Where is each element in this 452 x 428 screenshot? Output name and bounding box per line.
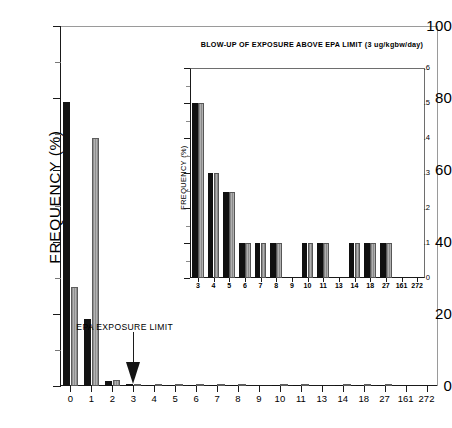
main-y-tick-label: 20 <box>406 306 452 321</box>
main-bar <box>105 381 113 386</box>
inset-y-tick <box>184 138 190 139</box>
inset-bar <box>208 173 214 278</box>
main-bar <box>301 384 309 386</box>
main-bar <box>167 385 175 386</box>
epa-limit-arrow-shaft <box>133 332 134 366</box>
main-x-tick <box>112 386 113 392</box>
main-x-tick-label: 272 <box>412 394 442 404</box>
main-bar <box>188 385 196 386</box>
inset-y-minor-tick <box>186 261 190 262</box>
main-bar <box>343 384 351 386</box>
inset-bar <box>223 192 229 278</box>
main-bar <box>196 384 204 386</box>
main-bar <box>217 384 225 386</box>
inset-bar <box>302 243 308 278</box>
main-bar <box>113 380 121 386</box>
main-bar <box>293 385 301 386</box>
main-bar <box>272 385 280 386</box>
main-bar <box>126 384 134 386</box>
main-bar <box>63 102 71 386</box>
main-y-tick <box>53 26 61 27</box>
main-bar <box>238 384 246 386</box>
inset-bar <box>349 243 355 278</box>
inset-y-tick-label: .6 <box>402 64 430 72</box>
main-y-axis-title: FREQUENCY (%) <box>46 130 64 263</box>
main-x-tick <box>322 386 323 392</box>
inset-chart-blowup: BLOW-UP OF EXPOSURE ABOVE EPA LIMIT (3 u… <box>150 30 430 292</box>
main-y-minor-tick <box>55 134 61 135</box>
inset-y-minor-tick <box>186 121 190 122</box>
inset-y-minor-tick <box>186 86 190 87</box>
inset-bar <box>192 103 198 278</box>
main-x-tick <box>427 386 428 392</box>
main-bar <box>377 385 385 386</box>
main-y-tick-label: 0 <box>406 378 452 393</box>
main-x-tick <box>91 386 92 392</box>
main-y-minor-tick <box>55 206 61 207</box>
inset-y-tick-label: 0 <box>402 274 430 282</box>
main-y-tick <box>53 386 61 387</box>
inset-bar <box>261 243 267 278</box>
main-x-tick <box>70 386 71 392</box>
inset-bar <box>317 243 323 278</box>
inset-bar <box>364 243 370 278</box>
figure-histogram-exposure: FREQUENCY (%) 020406080100 0123456789101… <box>0 0 452 428</box>
epa-limit-arrow-head-icon <box>126 362 140 384</box>
inset-y-tick-label: .1 <box>402 239 430 247</box>
inset-bar <box>386 243 392 278</box>
main-x-tick <box>364 386 365 392</box>
main-y-minor-tick <box>55 278 61 279</box>
main-bar <box>92 138 100 386</box>
main-y-tick <box>53 242 61 243</box>
inset-bar <box>245 243 251 278</box>
main-x-tick <box>154 386 155 392</box>
main-y-tick <box>53 170 61 171</box>
main-bar <box>209 385 217 386</box>
inset-y-tick-label: .3 <box>402 169 430 177</box>
inset-bar <box>380 243 386 278</box>
inset-bar <box>370 243 376 278</box>
inset-bar <box>276 243 282 278</box>
main-y-tick <box>53 98 61 99</box>
main-x-tick <box>133 386 134 392</box>
inset-y-minor-tick <box>186 226 190 227</box>
inset-y-tick <box>184 68 190 69</box>
inset-y-tick-label: .4 <box>402 134 430 142</box>
inset-y-minor-tick <box>186 156 190 157</box>
main-x-tick <box>280 386 281 392</box>
inset-y-tick-label: .2 <box>402 204 430 212</box>
inset-y-tick-label: .5 <box>402 99 430 107</box>
main-bar <box>280 384 288 386</box>
inset-y-minor-tick <box>186 191 190 192</box>
main-x-tick <box>196 386 197 392</box>
main-bar <box>364 384 372 386</box>
inset-x-tick-label: 272 <box>405 282 429 289</box>
epa-exposure-limit-annotation-label: EPA EXPOSURE LIMIT <box>76 322 173 332</box>
main-x-tick <box>259 386 260 392</box>
main-bar <box>134 384 142 386</box>
main-x-tick <box>217 386 218 392</box>
inset-y-tick <box>184 243 190 244</box>
inset-bar <box>198 103 204 278</box>
inset-bar <box>255 243 261 278</box>
inset-bar <box>214 173 220 278</box>
main-x-tick <box>406 386 407 392</box>
main-axes-right-rule <box>437 26 438 386</box>
inset-y-tick <box>184 208 190 209</box>
main-x-tick <box>238 386 239 392</box>
inset-chart-title: BLOW-UP OF EXPOSURE ABOVE EPA LIMIT (3 u… <box>194 40 430 49</box>
inset-bar <box>270 243 276 278</box>
main-bar <box>230 385 238 386</box>
main-bar <box>146 385 154 386</box>
main-axes-top-rule <box>60 26 437 27</box>
inset-bar <box>323 243 329 278</box>
inset-bar <box>239 243 245 278</box>
inset-bar <box>229 192 235 278</box>
main-y-minor-tick <box>55 350 61 351</box>
main-bar <box>155 384 163 386</box>
main-x-tick <box>301 386 302 392</box>
main-x-tick <box>343 386 344 392</box>
main-bar <box>71 287 79 386</box>
main-x-tick <box>385 386 386 392</box>
main-bar <box>335 385 343 386</box>
